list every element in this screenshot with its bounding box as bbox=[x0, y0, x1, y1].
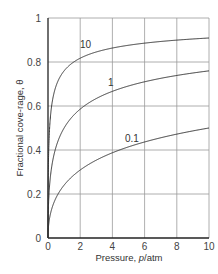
y-axis-label: Fractional cove-rage, θ bbox=[14, 79, 25, 176]
x-tick-label: 8 bbox=[174, 241, 180, 252]
x-tick-label: 4 bbox=[110, 241, 116, 252]
isotherm-curve-1 bbox=[48, 71, 209, 238]
curve-label-0.1: 0.1 bbox=[125, 133, 139, 144]
x-tick-label: 10 bbox=[203, 241, 215, 252]
x-tick-label: 2 bbox=[77, 241, 83, 252]
x-tick-label: 0 bbox=[45, 241, 51, 252]
y-tick-label: 0.2 bbox=[27, 189, 41, 200]
y-tick-label: 0 bbox=[35, 233, 41, 244]
grid-lines bbox=[48, 18, 209, 238]
y-tick-label: 0.8 bbox=[27, 57, 41, 68]
curve-label-10: 10 bbox=[80, 39, 92, 50]
isotherm-chart: 024681000.20.40.60.81 1010.1 Pressure, p… bbox=[0, 0, 218, 274]
curve-label-1: 1 bbox=[108, 77, 114, 88]
y-tick-label: 1 bbox=[35, 13, 41, 24]
isotherm-curve-0.1 bbox=[48, 128, 209, 238]
x-tick-label: 6 bbox=[142, 241, 148, 252]
axes bbox=[48, 18, 209, 238]
y-tick-label: 0.6 bbox=[27, 101, 41, 112]
y-tick-label: 0.4 bbox=[27, 145, 41, 156]
x-axis-label: Pressure, p/atm bbox=[95, 252, 162, 263]
